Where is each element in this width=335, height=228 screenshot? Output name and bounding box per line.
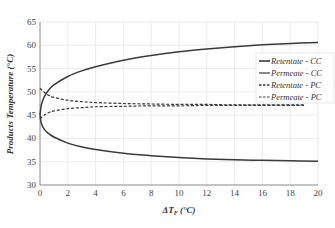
x-tick-label: 18 [286,188,296,198]
svg-text:Retentate - PC: Retentate - PC [270,80,321,90]
y-tick-labels: 3035404550556065 [27,17,37,190]
series-line-permeate-pc [40,105,304,119]
legend: Retentate - CC Permeate - CC Retentate -… [256,53,334,103]
x-axis-title: ΔTF (°C) [161,205,195,216]
y-axis-title: Products Temperature (°C) [5,54,15,154]
y-tick-label: 35 [27,157,37,167]
y-tick-label: 45 [27,110,37,120]
x-tick-label: 6 [121,188,126,198]
x-tick-label: 8 [149,188,154,198]
y-tick-label: 50 [27,87,37,97]
line-chart: 3035404550556065 02468101214161820 Produ… [0,0,335,228]
svg-text:Permeate - PC: Permeate - PC [270,92,322,102]
x-tick-label: 4 [93,188,98,198]
svg-text:Retentate - CC: Retentate - CC [270,56,322,66]
y-tick-label: 65 [27,17,37,27]
svg-text:Permeate - CC: Permeate - CC [270,68,322,78]
y-tick-label: 40 [27,133,37,143]
x-tick-label: 0 [38,188,43,198]
x-tick-label: 12 [202,188,211,198]
x-tick-label: 16 [258,188,268,198]
y-tick-label: 30 [27,180,37,190]
x-tick-labels: 02468101214161820 [38,188,323,198]
x-tick-label: 2 [66,188,71,198]
x-tick-label: 10 [175,188,185,198]
y-tick-label: 60 [27,40,37,50]
x-tick-label: 14 [230,188,240,198]
x-tick-label: 20 [314,188,324,198]
y-tick-label: 55 [27,64,37,74]
